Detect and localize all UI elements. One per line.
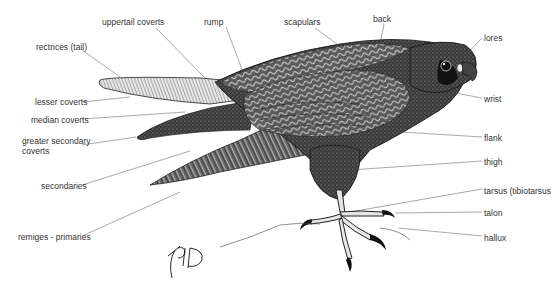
thigh [310,145,360,200]
label-remiges-primaries: remiges - primaries [18,232,91,242]
label-thigh: thigh [484,157,502,167]
label-scapulars: scapulars [284,17,320,27]
label-secondaries: secondaries [41,181,87,191]
label-lesser-coverts: lesser coverts [35,97,87,107]
feet [310,190,384,260]
label-lores: lores [484,33,502,43]
label-back: back [373,14,391,24]
artist-signature [168,246,202,278]
greater-coverts-wedge [137,100,255,140]
label-greater-secondary-coverts: greater secondary [22,136,91,146]
label-rectrices-tail: rectrices (tail) [36,42,87,52]
label-talon: talon [484,208,502,218]
label-hallux: hallux [484,233,506,243]
label-rump: rump [204,17,223,27]
label-flank: flank [484,133,502,143]
eye [441,61,451,71]
label-wrist: wrist [484,94,501,104]
label-uppertail-coverts: uppertail coverts [102,17,164,27]
label-greater-secondary-coverts-line2: coverts [22,146,49,156]
label-median-coverts: median coverts [31,115,89,125]
label-tarsus-tibiotarsus: tarsus (tibiotarsus [484,186,551,196]
